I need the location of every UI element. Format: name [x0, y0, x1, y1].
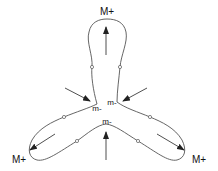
marker-top-left: [90, 65, 93, 68]
marker-top-right: [118, 65, 121, 68]
marker-left-lower: [75, 139, 78, 142]
marker-right-upper: [148, 115, 151, 118]
arrow-outward-bottom-left-icon: [30, 134, 55, 150]
label-min-left: m-: [92, 104, 102, 113]
closed-curve: [29, 19, 184, 160]
label-bottom-left-max: M+: [12, 154, 26, 165]
arrow-inward-right-icon: [123, 88, 147, 101]
label-min-bottom: m-: [102, 117, 112, 126]
three-lobe-diagram: M+ M+ M+ m- m- m-: [0, 0, 218, 171]
marker-left-upper: [62, 115, 65, 118]
label-bottom-right-max: M+: [192, 154, 206, 165]
label-min-right: m-: [107, 98, 117, 107]
arrow-inward-left-icon: [65, 88, 90, 101]
marker-right-lower: [136, 139, 139, 142]
label-top-max: M+: [100, 6, 114, 17]
